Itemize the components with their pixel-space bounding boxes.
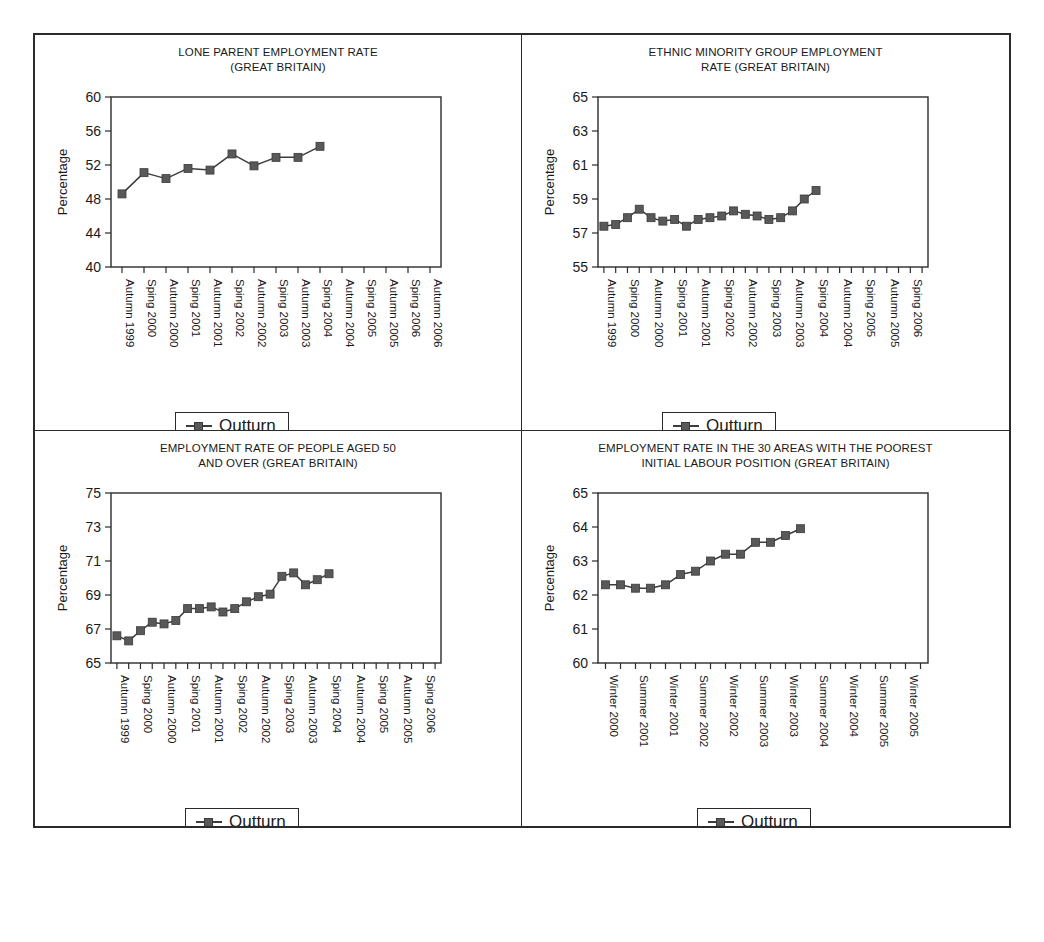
svg-text:Sping 2002: Sping 2002 [724, 279, 736, 337]
legend-line-marker-icon [673, 420, 699, 431]
svg-text:Winter 2004: Winter 2004 [848, 675, 860, 738]
svg-text:Sping 2005: Sping 2005 [378, 675, 390, 733]
legend-line-marker-icon [186, 420, 212, 431]
svg-text:Winter 2003: Winter 2003 [788, 675, 800, 737]
svg-text:40: 40 [85, 259, 101, 275]
svg-text:65: 65 [85, 655, 101, 671]
plot-poorest-areas: 606162636465PercentageWinter 2000Summer … [522, 431, 1009, 827]
svg-text:Sping 2002: Sping 2002 [237, 675, 249, 733]
chart-cell-aged-50-and-over: EMPLOYMENT RATE OF PEOPLE AGED 50 AND OV… [35, 431, 522, 827]
svg-text:Autumn 2003: Autumn 2003 [794, 279, 806, 347]
plot-aged-50-and-over: 656769717375PercentageAutumn 1999Sping 2… [35, 431, 521, 827]
svg-text:Autumn 2004: Autumn 2004 [842, 279, 854, 348]
svg-text:44: 44 [85, 225, 101, 241]
svg-text:Autumn 2002: Autumn 2002 [256, 279, 268, 347]
svg-text:Sping 2001: Sping 2001 [190, 675, 202, 733]
svg-text:Summer 2003: Summer 2003 [758, 675, 770, 747]
chart-legend: Outturn [185, 808, 299, 827]
svg-text:Sping 2002: Sping 2002 [234, 279, 246, 337]
legend-series-label: Outturn [741, 812, 798, 827]
svg-text:Sping 2006: Sping 2006 [425, 675, 437, 733]
svg-text:65: 65 [572, 89, 588, 105]
svg-text:Autumn 2000: Autumn 2000 [653, 279, 665, 347]
svg-text:57: 57 [572, 225, 588, 241]
svg-text:55: 55 [572, 259, 588, 275]
svg-text:Winter 2002: Winter 2002 [728, 675, 740, 737]
svg-text:Autumn 2001: Autumn 2001 [213, 675, 225, 743]
svg-text:Sping 2006: Sping 2006 [912, 279, 924, 337]
svg-text:Sping 2005: Sping 2005 [865, 279, 877, 337]
svg-text:Autumn 2004: Autumn 2004 [355, 675, 367, 744]
svg-text:Autumn 1999: Autumn 1999 [606, 279, 618, 347]
svg-text:Summer 2001: Summer 2001 [638, 675, 650, 747]
svg-text:62: 62 [572, 587, 588, 603]
svg-text:Autumn 2000: Autumn 2000 [168, 279, 180, 347]
svg-text:Winter 2000: Winter 2000 [608, 675, 620, 737]
legend-line-marker-icon [708, 816, 734, 827]
svg-text:Sping 2004: Sping 2004 [322, 279, 334, 338]
svg-text:Autumn 2001: Autumn 2001 [700, 279, 712, 347]
legend-series-label: Outturn [219, 416, 276, 431]
svg-text:Sping 2005: Sping 2005 [366, 279, 378, 337]
svg-text:Summer 2002: Summer 2002 [698, 675, 710, 747]
svg-text:60: 60 [572, 655, 588, 671]
svg-text:Autumn 2003: Autumn 2003 [300, 279, 312, 347]
svg-text:63: 63 [572, 553, 588, 569]
svg-text:64: 64 [572, 519, 588, 535]
svg-text:Sping 2003: Sping 2003 [771, 279, 783, 337]
svg-text:Percentage: Percentage [55, 544, 70, 611]
svg-text:52: 52 [85, 157, 101, 173]
svg-text:Sping 2001: Sping 2001 [677, 279, 689, 337]
svg-text:61: 61 [572, 157, 588, 173]
charts-panel: LONE PARENT EMPLOYMENT RATE (GREAT BRITA… [33, 33, 1011, 828]
chart-legend: Outturn [662, 412, 776, 431]
svg-text:Autumn 2006: Autumn 2006 [432, 279, 444, 347]
svg-text:75: 75 [85, 485, 101, 501]
svg-text:61: 61 [572, 621, 588, 637]
svg-text:Sping 2000: Sping 2000 [629, 279, 641, 337]
svg-text:Sping 2000: Sping 2000 [142, 675, 154, 733]
svg-text:Autumn 2005: Autumn 2005 [402, 675, 414, 743]
chart-legend: Outturn [697, 808, 811, 827]
legend-series-label: Outturn [706, 416, 763, 431]
svg-text:Percentage: Percentage [55, 149, 70, 216]
svg-text:Autumn 2002: Autumn 2002 [260, 675, 272, 743]
svg-text:Autumn 2005: Autumn 2005 [388, 279, 400, 347]
svg-text:59: 59 [572, 191, 588, 207]
svg-text:48: 48 [85, 191, 101, 207]
svg-text:Sping 2003: Sping 2003 [284, 675, 296, 733]
legend-line-marker-icon [196, 816, 222, 827]
svg-text:Sping 2000: Sping 2000 [146, 279, 158, 337]
chart-legend: Outturn [175, 412, 289, 431]
legend-series-label: Outturn [229, 812, 286, 827]
svg-text:Autumn 2003: Autumn 2003 [307, 675, 319, 743]
svg-text:Sping 2001: Sping 2001 [190, 279, 202, 337]
svg-text:67: 67 [85, 621, 101, 637]
svg-text:Summer 2004: Summer 2004 [818, 675, 830, 748]
svg-text:Percentage: Percentage [542, 149, 557, 216]
svg-text:Autumn 2004: Autumn 2004 [344, 279, 356, 348]
svg-text:73: 73 [85, 519, 101, 535]
svg-text:71: 71 [85, 553, 101, 569]
svg-text:Autumn 1999: Autumn 1999 [119, 675, 131, 743]
plot-ethnic-minority: 555759616365PercentageAutumn 1999Sping 2… [522, 35, 1009, 430]
plot-lone-parent: 404448525660PercentageAutumn 1999Sping 2… [35, 35, 521, 430]
svg-text:Winter 2005: Winter 2005 [908, 675, 920, 737]
svg-text:Sping 2006: Sping 2006 [410, 279, 422, 337]
svg-text:Summer 2005: Summer 2005 [878, 675, 890, 747]
svg-text:Autumn 2002: Autumn 2002 [747, 279, 759, 347]
svg-text:Autumn 2000: Autumn 2000 [166, 675, 178, 743]
svg-text:65: 65 [572, 485, 588, 501]
svg-text:Autumn 2001: Autumn 2001 [212, 279, 224, 347]
svg-text:Autumn 2005: Autumn 2005 [889, 279, 901, 347]
svg-text:Autumn 1999: Autumn 1999 [124, 279, 136, 347]
svg-text:Sping 2003: Sping 2003 [278, 279, 290, 337]
svg-text:Sping 2004: Sping 2004 [818, 279, 830, 338]
svg-text:63: 63 [572, 123, 588, 139]
svg-text:69: 69 [85, 587, 101, 603]
svg-text:56: 56 [85, 123, 101, 139]
svg-text:60: 60 [85, 89, 101, 105]
svg-text:Percentage: Percentage [542, 544, 557, 611]
chart-cell-lone-parent: LONE PARENT EMPLOYMENT RATE (GREAT BRITA… [35, 35, 522, 431]
svg-text:Winter 2001: Winter 2001 [668, 675, 680, 737]
